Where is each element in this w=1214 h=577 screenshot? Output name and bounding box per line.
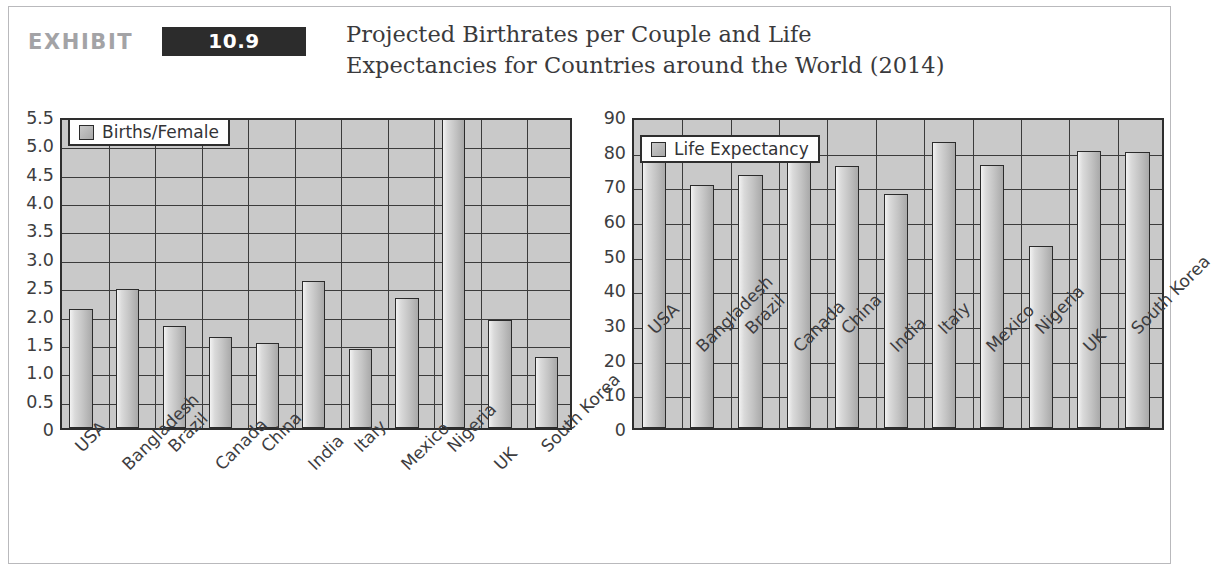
legend-label-births: Births/Female (102, 122, 219, 142)
y-tick-label: 80 (604, 143, 626, 163)
y-tick-label: 4.5 (26, 165, 54, 185)
y-axis-labels-left: 00.51.01.52.02.53.03.54.04.55.05.5 (14, 118, 58, 436)
legend-swatch-icon (79, 125, 94, 140)
y-tick-label: 0 (615, 420, 626, 440)
bar (349, 349, 372, 428)
bar (116, 289, 139, 428)
bar (69, 309, 92, 428)
x-tick-label: UK (1079, 325, 1110, 356)
x-tick-label: India (886, 312, 930, 356)
y-tick-label: 4.0 (26, 193, 54, 213)
bar (209, 337, 232, 428)
plot-area-left (60, 118, 572, 430)
y-tick-label: 30 (604, 316, 626, 336)
y-tick-label: 1.0 (26, 363, 54, 383)
y-axis-labels-right: 0102030405060708090 (586, 118, 630, 436)
y-tick-label: 0.5 (26, 392, 54, 412)
legend-swatch-icon (651, 142, 666, 157)
legend-label-life-expectancy: Life Expectancy (674, 139, 809, 159)
y-tick-label: 10 (604, 385, 626, 405)
legend-births-per-female: Births/Female (68, 118, 230, 146)
y-tick-label: 90 (604, 108, 626, 128)
y-tick-label: 70 (604, 177, 626, 197)
bar (535, 357, 558, 428)
bar (256, 343, 279, 428)
bar (302, 281, 325, 428)
y-tick-label: 50 (604, 247, 626, 267)
y-tick-label: 2.0 (26, 307, 54, 327)
y-tick-label: 40 (604, 281, 626, 301)
x-tick-label: UK (490, 443, 521, 474)
y-tick-label: 5.5 (26, 108, 54, 128)
y-tick-label: 3.0 (26, 250, 54, 270)
bar (395, 298, 418, 428)
legend-life-expectancy: Life Expectancy (640, 135, 820, 163)
y-tick-label: 1.5 (26, 335, 54, 355)
x-axis-labels-right: USABangladeshBrazilCanadaChinaIndiaItaly… (632, 316, 1164, 446)
y-tick-label: 20 (604, 351, 626, 371)
y-tick-label: 5.0 (26, 136, 54, 156)
y-tick-label: 0 (43, 420, 54, 440)
bars-left (62, 120, 570, 428)
x-axis-labels-left: USABangladeshBrazilCanadaChinaIndiaItaly… (60, 434, 572, 564)
y-tick-label: 60 (604, 212, 626, 232)
y-tick-label: 2.5 (26, 278, 54, 298)
x-tick-label: India (304, 430, 348, 474)
bar (442, 119, 465, 428)
y-tick-label: 3.5 (26, 221, 54, 241)
